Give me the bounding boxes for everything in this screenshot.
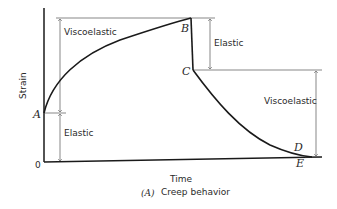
label-right-viscoelastic: Viscoelastic <box>264 96 317 106</box>
label-left-elastic: Elastic <box>64 128 93 138</box>
point-b-label: B <box>180 22 189 35</box>
point-a-label: A <box>32 108 41 121</box>
caption-prefix: (A) <box>141 188 155 198</box>
point-e-label: E <box>295 157 304 170</box>
label-left-viscoelastic: Viscoelastic <box>64 27 117 37</box>
point-c-label: C <box>182 65 191 78</box>
x-axis-label: Time <box>169 174 192 184</box>
dimension-arrows <box>60 19 316 161</box>
x-axis <box>44 157 322 162</box>
caption: Creep behavior <box>161 187 230 197</box>
creep-diagram: Viscoelastic Elastic Elastic Viscoelasti… <box>0 0 337 209</box>
elastic-recovery-line <box>191 18 193 70</box>
point-d-label: D <box>293 141 303 154</box>
label-right-elastic: Elastic <box>214 38 243 48</box>
origin-label: 0 <box>35 160 41 170</box>
y-axis-label: Strain <box>18 72 28 99</box>
